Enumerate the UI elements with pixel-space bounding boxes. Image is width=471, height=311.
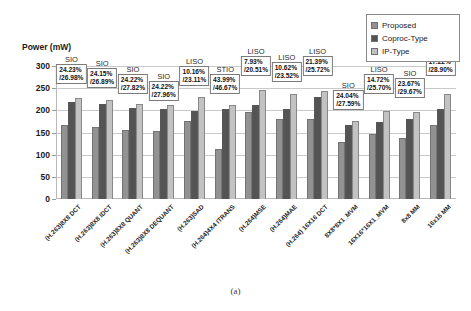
bar-group bbox=[56, 66, 87, 199]
y-axis-tick-label: 300 bbox=[36, 61, 50, 71]
bar[interactable] bbox=[129, 108, 136, 199]
annotation-box: 24.04%/27.59% bbox=[333, 90, 363, 110]
annotation-callout: SIO24.22%/27.96% bbox=[149, 73, 179, 101]
bar[interactable] bbox=[352, 121, 359, 199]
bar[interactable] bbox=[160, 109, 167, 199]
bar[interactable] bbox=[290, 94, 297, 200]
annotation-saving-vs-ip: /23.52% bbox=[275, 72, 299, 80]
x-axis-labels: (H.263)8X8 DCT(H.263)8X8 IDCT(H.263)8X8 … bbox=[56, 199, 456, 289]
bar[interactable] bbox=[122, 130, 129, 199]
bar[interactable] bbox=[338, 142, 345, 199]
annotation-box: 7.93%/20.51% bbox=[241, 56, 271, 76]
y-axis-tick-label: 250 bbox=[36, 83, 50, 93]
bar-group bbox=[425, 66, 456, 199]
annotation-box: 14.72%/25.70% bbox=[364, 74, 394, 94]
bar[interactable] bbox=[345, 125, 352, 199]
y-axis-tick-label: 0 bbox=[45, 194, 50, 204]
bar[interactable] bbox=[167, 105, 174, 199]
bar[interactable] bbox=[245, 112, 252, 199]
bar[interactable] bbox=[399, 138, 406, 199]
annotation-saving-vs-ip: /46.67% bbox=[213, 84, 237, 92]
chart-legend: ProposedCoproc-TypeIP-Type bbox=[366, 14, 460, 62]
bar[interactable] bbox=[383, 111, 390, 199]
annotation-saving-vs-ip: /27.59% bbox=[336, 100, 360, 108]
legend-item-label: Proposed bbox=[382, 21, 416, 30]
bar[interactable] bbox=[136, 104, 143, 199]
annotation-callout: SIO24.22%/27.82% bbox=[118, 66, 148, 94]
bar[interactable] bbox=[61, 125, 68, 199]
bar[interactable] bbox=[369, 134, 376, 199]
annotation-saving-vs-ip: /27.96% bbox=[152, 91, 176, 99]
bar[interactable] bbox=[444, 94, 451, 199]
bar[interactable] bbox=[222, 109, 229, 199]
annotation-io-type: LISO bbox=[364, 66, 394, 74]
annotation-saving-vs-ip: /26.89% bbox=[90, 78, 114, 86]
annotation-saving-vs-coproc: 14.72% bbox=[367, 76, 391, 84]
annotation-saving-vs-ip: /27.82% bbox=[121, 84, 145, 92]
bar[interactable] bbox=[252, 105, 259, 199]
bar[interactable] bbox=[413, 112, 420, 199]
bar[interactable] bbox=[184, 121, 191, 199]
legend-item[interactable]: IP-Type bbox=[371, 45, 455, 57]
bar[interactable] bbox=[153, 131, 160, 199]
annotation-io-type: LISO bbox=[302, 48, 332, 56]
annotation-saving-vs-coproc: 23.67% bbox=[398, 80, 422, 88]
bar[interactable] bbox=[215, 149, 222, 199]
annotation-saving-vs-coproc: 24.15% bbox=[90, 70, 114, 78]
bar[interactable] bbox=[106, 100, 113, 199]
bar[interactable] bbox=[259, 90, 266, 199]
annotation-box: 23.67%/29.67% bbox=[395, 78, 425, 98]
bar[interactable] bbox=[321, 91, 328, 199]
annotation-io-type: SIO bbox=[395, 70, 425, 78]
bar[interactable] bbox=[191, 111, 198, 199]
bar[interactable] bbox=[276, 119, 283, 199]
annotation-saving-vs-coproc: 10.62% bbox=[275, 64, 299, 72]
annotation-callout: LISO10.16%/23.11% bbox=[180, 58, 210, 86]
bar[interactable] bbox=[198, 97, 205, 199]
annotation-io-type: SIO bbox=[118, 66, 148, 74]
bar[interactable] bbox=[406, 119, 413, 199]
bar[interactable] bbox=[376, 122, 383, 199]
bar[interactable] bbox=[75, 98, 82, 199]
annotation-saving-vs-coproc: 24.22% bbox=[121, 76, 145, 84]
annotation-callout: SIO23.67%/29.67% bbox=[395, 70, 425, 98]
bar[interactable] bbox=[307, 119, 314, 199]
bar[interactable] bbox=[99, 104, 106, 199]
annotation-box: 43.99%/46.67% bbox=[210, 74, 240, 94]
bar[interactable] bbox=[229, 105, 236, 199]
x-axis-tick-label: 8x8 MM bbox=[400, 203, 421, 224]
legend-item[interactable]: Coproc-Type bbox=[371, 32, 455, 44]
annotation-box: 24.23%/26.98% bbox=[56, 64, 86, 84]
annotation-io-type: SIO bbox=[56, 56, 86, 64]
annotation-box: 21.39%/25.72% bbox=[302, 56, 332, 76]
annotation-box: 24.22%/27.82% bbox=[118, 74, 148, 94]
bar-group bbox=[302, 66, 333, 199]
annotation-saving-vs-ip: /23.11% bbox=[183, 76, 207, 84]
bar[interactable] bbox=[437, 109, 444, 199]
annotation-io-type: STIO bbox=[210, 66, 240, 74]
annotation-callout: SIO24.15%/26.89% bbox=[87, 60, 117, 88]
x-axis-tick-label: (H.263)SAD bbox=[176, 203, 206, 233]
annotation-callout: LISO14.72%/25.70% bbox=[364, 66, 394, 94]
x-axis-tick-label: (H.264)MSE bbox=[237, 203, 267, 233]
legend-item-label: IP-Type bbox=[382, 47, 410, 56]
annotation-io-type: LISO bbox=[241, 48, 271, 56]
bar[interactable] bbox=[68, 102, 75, 199]
bar[interactable] bbox=[430, 125, 437, 199]
legend-item[interactable]: Proposed bbox=[371, 19, 455, 31]
y-axis-ticks: 050100150200250300 bbox=[0, 66, 56, 199]
y-axis-tick-label: 150 bbox=[36, 128, 50, 138]
annotation-saving-vs-coproc: 24.22% bbox=[152, 83, 176, 91]
y-axis-tick-label: 100 bbox=[36, 150, 50, 160]
x-axis-tick-label: 16x16 MM bbox=[425, 203, 451, 229]
bar[interactable] bbox=[283, 109, 290, 199]
annotation-saving-vs-coproc: 24.04% bbox=[336, 92, 360, 100]
annotation-box: 10.62%/23.52% bbox=[272, 62, 302, 82]
annotation-saving-vs-coproc: 7.93% bbox=[244, 58, 268, 66]
annotation-callout: LISO7.93%/20.51% bbox=[241, 48, 271, 76]
bar-group bbox=[271, 66, 302, 199]
bar[interactable] bbox=[314, 97, 321, 199]
annotation-callout: SIO24.04%/27.59% bbox=[333, 82, 363, 110]
bar[interactable] bbox=[92, 127, 99, 199]
legend-item-label: Coproc-Type bbox=[382, 34, 428, 43]
